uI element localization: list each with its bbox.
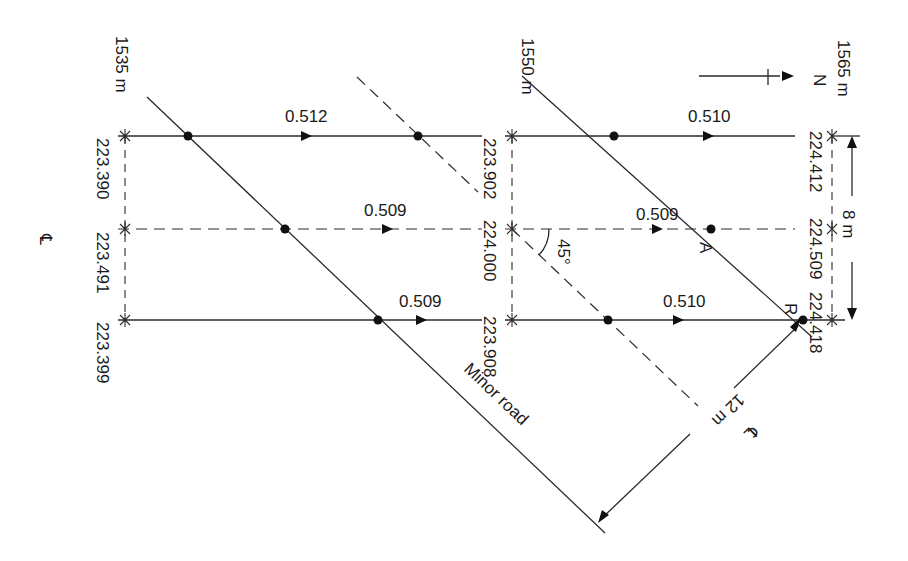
gradient-right-center: 0.509: [636, 205, 679, 224]
intersection-point: [281, 225, 290, 234]
gradient-arrow-icon: [652, 224, 663, 234]
centerline-symbol-main: ℄: [36, 233, 55, 245]
radius-dimension-label: 12 m: [708, 390, 748, 430]
dim-arrow-up-icon: [847, 136, 857, 148]
gradient-right-top: 0.510: [688, 107, 731, 126]
gradient-left-top: 0.512: [285, 107, 328, 126]
point-a-label: A: [696, 242, 715, 254]
north-arrow-icon: [782, 71, 794, 81]
point-r-label: R: [781, 303, 800, 315]
gradient-arrow-icon: [703, 131, 714, 141]
chainage-label-1535: 1535 m: [112, 36, 131, 93]
dim-arrow-down-icon: [847, 308, 857, 320]
radius-dim-line-upper: [734, 326, 798, 388]
gradient-arrow-icon: [382, 224, 393, 234]
radius-arrow-icon: [598, 510, 609, 523]
level-1565-center: 224.509: [806, 218, 825, 279]
gradient-left-bottom: 0.509: [399, 292, 442, 311]
level-1565-bottom: 224.418: [806, 292, 825, 353]
gradient-arrow-icon: [673, 315, 684, 325]
chainage-label-1550: 1550 m: [518, 38, 537, 95]
intersection-point: [374, 316, 383, 325]
level-1550-top: 223.902: [480, 138, 499, 199]
intersection-point: [610, 132, 619, 141]
level-1565-top: 224.412: [806, 131, 825, 192]
intersection-point: [604, 316, 613, 325]
point-a: [707, 225, 716, 234]
radius-dim-line-lower: [600, 434, 690, 520]
level-1535-top: 223.390: [93, 138, 112, 199]
width-dimension-label: 8 m: [839, 210, 858, 238]
gradient-arrow-icon: [301, 131, 312, 141]
level-1550-center: 224.000: [480, 220, 499, 281]
gradient-arrow-icon: [416, 315, 427, 325]
gradient-right-bottom: 0.510: [663, 292, 706, 311]
gradient-left-center: 0.509: [364, 201, 407, 220]
centerline-symbol-minor: ℄: [740, 421, 762, 443]
intersection-point: [184, 132, 193, 141]
angle-arc: [539, 229, 549, 255]
level-1535-bottom: 223.399: [93, 322, 112, 383]
level-point-markers: [120, 129, 837, 327]
level-1535-center: 223.491: [93, 232, 112, 293]
north-label: N: [810, 74, 829, 86]
minor-road-kerb-line: [147, 97, 605, 533]
chainage-label-1565: 1565 m: [834, 40, 853, 97]
road-junction-diagram: 1535 m 1550 m 1565 m N 223.390 223.491 2…: [0, 0, 908, 561]
intersection-point: [414, 132, 423, 141]
angle-label: 45°: [554, 239, 573, 265]
